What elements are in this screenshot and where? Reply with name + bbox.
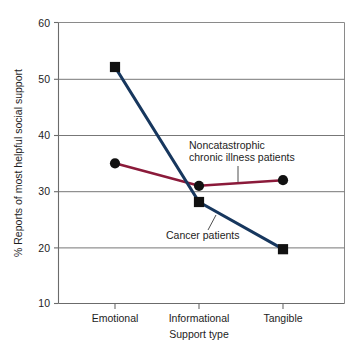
chart-figure: 10 20 30 40 50 60 Emotional Informationa… <box>0 0 359 356</box>
annotation-cancer-line1: Cancer patients <box>166 229 240 241</box>
xtick-label-tangible: Tangible <box>263 312 302 324</box>
plot-frame <box>59 23 345 304</box>
gridlines <box>59 79 345 248</box>
data-point-cancer-informational <box>194 197 204 207</box>
x-tick-marks <box>115 304 283 310</box>
annotation-noncatastrophic-line2: chronic illness patients <box>189 151 295 163</box>
xtick-label-emotional: Emotional <box>92 312 139 324</box>
data-point-noncatastrophic-informational <box>194 181 204 191</box>
data-point-noncatastrophic-emotional <box>110 158 120 168</box>
xtick-label-informational: Informational <box>169 312 230 324</box>
data-point-cancer-tangible <box>278 244 288 254</box>
y-axis-title: % Reports of most helpful social support <box>12 69 24 257</box>
ytick-label-50: 50 <box>38 73 50 85</box>
x-axis-title: Support type <box>169 328 229 340</box>
x-tick-labels: Emotional Informational Tangible <box>92 312 303 324</box>
y-tick-labels: 10 20 30 40 50 60 <box>38 17 50 310</box>
data-point-noncatastrophic-tangible <box>278 175 288 185</box>
ytick-label-30: 30 <box>38 185 50 197</box>
ytick-label-40: 40 <box>38 129 50 141</box>
ytick-label-20: 20 <box>38 242 50 254</box>
series-noncatastrophic <box>110 158 288 191</box>
ytick-label-60: 60 <box>38 17 50 29</box>
ytick-label-10: 10 <box>38 297 50 309</box>
y-tick-marks <box>54 23 59 304</box>
data-point-cancer-emotional <box>110 62 120 72</box>
annotation-noncatastrophic-line1: Noncatastrophic <box>189 139 265 151</box>
line-chart: 10 20 30 40 50 60 Emotional Informationa… <box>0 0 359 356</box>
annotation-noncatastrophic: Noncatastrophic chronic illness patients <box>189 139 295 182</box>
annotation-cancer-leader <box>208 215 216 230</box>
